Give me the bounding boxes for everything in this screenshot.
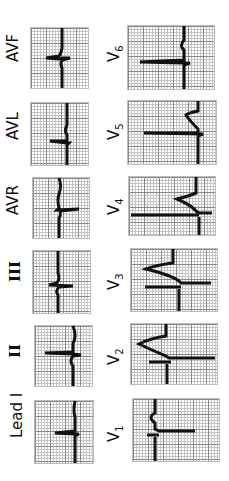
ecg-strip-v2 bbox=[130, 323, 218, 385]
ecg-trace-ii bbox=[35, 326, 92, 386]
lead-label-v1: V1 bbox=[107, 425, 125, 442]
ecg-strip-lead-i bbox=[34, 400, 94, 464]
ecg-strip-avf bbox=[30, 27, 89, 89]
lead-label-avr: AVR bbox=[6, 185, 21, 215]
lead-label-v5: V5 bbox=[107, 123, 125, 140]
ecg-trace-v6 bbox=[128, 26, 214, 89]
ecg-trace-v4 bbox=[129, 177, 215, 235]
ecg-trace-v1 bbox=[133, 399, 219, 461]
ecg-strip-v3 bbox=[130, 248, 218, 312]
ecg-trace-v2 bbox=[131, 324, 217, 384]
ecg-strip-v5 bbox=[127, 100, 217, 165]
ecg-trace-avr bbox=[33, 178, 89, 238]
lead-label-v4: V4 bbox=[107, 198, 125, 215]
ecg-trace-v3 bbox=[131, 249, 217, 311]
ecg-trace-avl bbox=[31, 103, 88, 165]
ecg-trace-v5 bbox=[128, 101, 216, 164]
ecg-trace-lead-i bbox=[35, 401, 93, 463]
lead-label-v6: V6 bbox=[107, 45, 125, 62]
lead-label-iii: III bbox=[8, 261, 23, 282]
lead-label-v3: V3 bbox=[107, 273, 125, 290]
lead-label-ii: II bbox=[8, 344, 23, 358]
ecg-strip-v1 bbox=[132, 398, 220, 462]
ecg-strip-avr bbox=[32, 177, 90, 239]
ecg-trace-avf bbox=[31, 28, 88, 88]
ecg-trace-iii bbox=[33, 251, 90, 313]
ecg-strip-iii bbox=[32, 250, 91, 314]
lead-label-v2: V2 bbox=[107, 348, 125, 365]
ecg-strip-ii bbox=[34, 325, 93, 387]
lead-label-avl: AVL bbox=[6, 112, 21, 140]
ecg-strip-avl bbox=[30, 102, 89, 166]
ecg-strip-v4 bbox=[128, 176, 216, 236]
ecg-strip-v6 bbox=[127, 25, 215, 90]
lead-label-avf: AVF bbox=[6, 34, 21, 62]
lead-label-lead-i: Lead I bbox=[10, 393, 25, 438]
